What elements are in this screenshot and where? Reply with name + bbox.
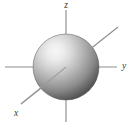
figure-canvas: z y x [0,0,135,130]
x-axis-label: x [13,108,19,118]
axes-sphere-diagram: z y x [0,0,135,130]
y-axis-label: y [121,61,127,71]
z-axis-label: z [63,0,68,10]
